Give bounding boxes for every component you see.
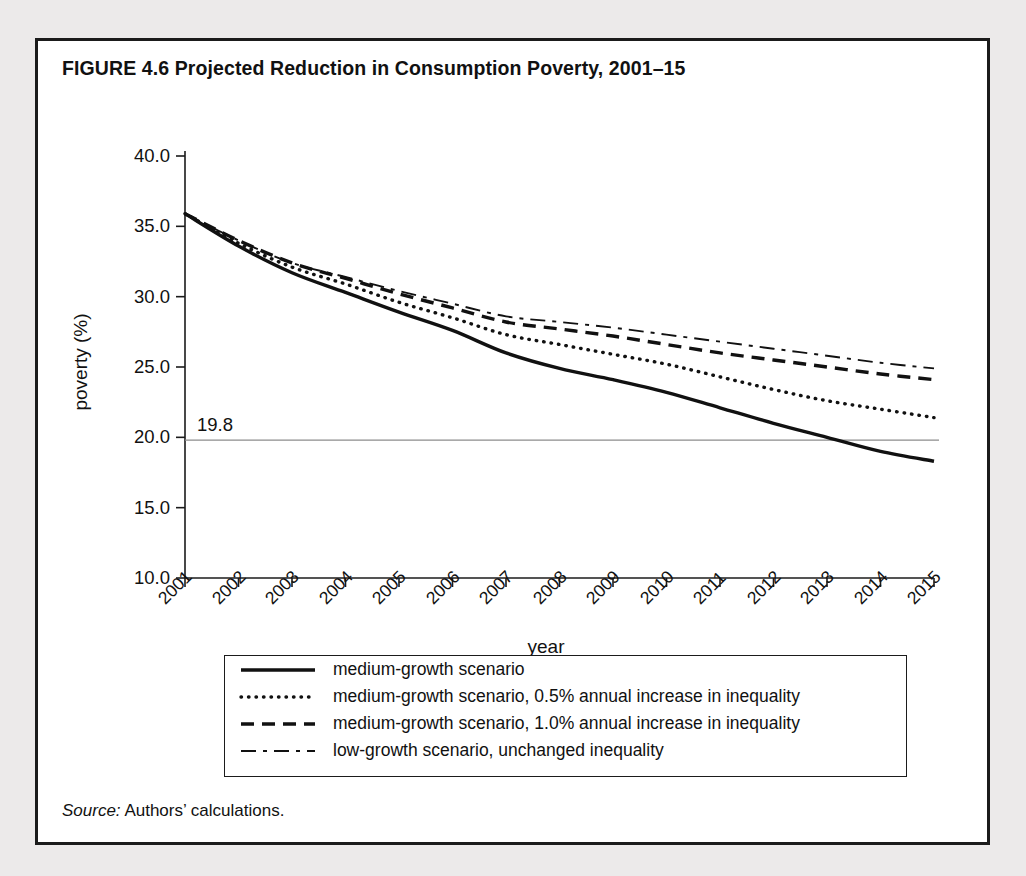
y-tick-label: 30.0 xyxy=(98,286,170,308)
chart-plot-area: poverty (%) year 19.8 40.035.030.025.020… xyxy=(38,96,987,656)
legend-item-label: medium-growth scenario, 0.5% annual incr… xyxy=(333,686,800,707)
source-prefix: Source: xyxy=(62,801,121,820)
series-line-solid xyxy=(185,214,934,462)
legend-item-label: low-growth scenario, unchanged inequalit… xyxy=(333,740,664,761)
legend-item: medium-growth scenario xyxy=(225,656,906,683)
legend-line-sample-dashed xyxy=(239,717,317,731)
y-axis-title: poverty (%) xyxy=(70,313,92,410)
legend-item: low-growth scenario, unchanged inequalit… xyxy=(225,737,906,764)
legend-item-label: medium-growth scenario, 1.0% annual incr… xyxy=(333,713,800,734)
chart-axes xyxy=(185,151,934,578)
y-tick-label: 20.0 xyxy=(98,426,170,448)
figure-container: FIGURE 4.6 Projected Reduction in Consum… xyxy=(35,38,990,845)
chart-legend: medium-growth scenariomedium-growth scen… xyxy=(224,655,907,777)
legend-line-sample-solid xyxy=(239,663,317,677)
series-line-dotted xyxy=(185,214,934,418)
legend-item-label: medium-growth scenario xyxy=(333,659,525,680)
y-tick-label: 35.0 xyxy=(98,215,170,237)
legend-line-sample-dashdot xyxy=(239,744,317,758)
legend-item: medium-growth scenario, 0.5% annual incr… xyxy=(225,683,906,710)
series-line-dashed xyxy=(185,214,934,380)
source-text: Authors’ calculations. xyxy=(121,801,285,820)
legend-item: medium-growth scenario, 1.0% annual incr… xyxy=(225,710,906,737)
y-tick-label: 25.0 xyxy=(98,356,170,378)
legend-line-sample-dotted xyxy=(239,690,317,704)
figure-title: FIGURE 4.6 Projected Reduction in Consum… xyxy=(62,57,686,80)
y-tick-label: 40.0 xyxy=(98,145,170,167)
source-note: Source: Authors’ calculations. xyxy=(62,801,284,821)
reference-line-label: 19.8 xyxy=(197,414,233,436)
y-tick-label: 10.0 xyxy=(98,567,170,589)
y-tick-label: 15.0 xyxy=(98,497,170,519)
